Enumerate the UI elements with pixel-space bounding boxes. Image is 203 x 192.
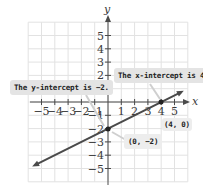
y-intercept-callout: The y-intercept is −2.: [10, 80, 113, 95]
y-tick-label: 5: [97, 30, 104, 43]
x-tick-label: 1: [118, 105, 125, 118]
point-y-intercept: [106, 127, 111, 132]
y-axis-label: y: [103, 3, 111, 16]
x-axis-label: x: [192, 95, 199, 108]
x-tick-label: 4: [158, 105, 165, 118]
y-axis: [105, 15, 111, 185]
y-tick-label: −4: [88, 149, 104, 162]
y-tick-label: 3: [97, 56, 104, 69]
point-x-intercept: [159, 100, 164, 105]
y-tick-label: −5: [88, 163, 104, 176]
point-label-y-intercept: (0, −2): [124, 134, 162, 149]
x-intercept-leader: [150, 84, 160, 99]
x-intercept-callout: The x-intercept is 4.: [114, 68, 203, 83]
y-tick-label: 4: [97, 43, 104, 56]
point-label-x-intercept: (4, 0): [162, 118, 192, 131]
coordinate-plane: −5−4−3−2−11234554321−1−2−3−4−5 x y: [0, 0, 203, 192]
x-tick-label: 5: [171, 105, 178, 118]
